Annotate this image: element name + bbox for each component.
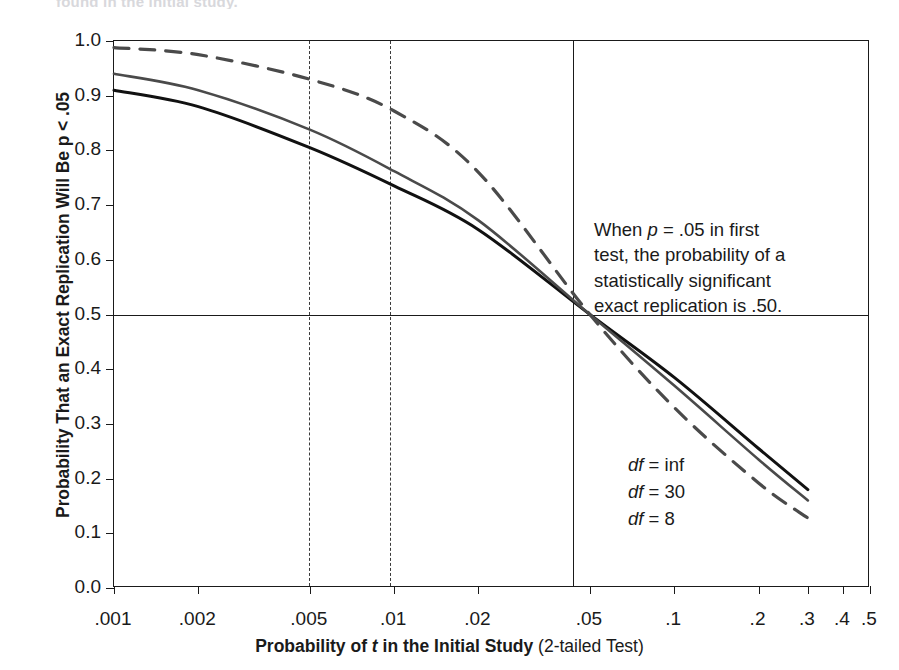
x-tick-label-002: .002 (179, 609, 216, 628)
x-tick-002 (198, 586, 199, 594)
y-tick-label-05: 0.5 (43, 303, 101, 325)
x-tick-02 (478, 586, 479, 594)
y-tick-08 (106, 150, 114, 151)
plot-area: When p = .05 in first test, the probabil… (113, 40, 869, 587)
y-tick-01 (106, 533, 114, 534)
y-tick-09 (106, 96, 114, 97)
y-tick-07 (106, 205, 114, 206)
y-tick-label-02: 0.2 (43, 467, 101, 489)
y-tick-label-07: 0.7 (43, 193, 101, 215)
y-tick-04 (106, 369, 114, 370)
cropped-caption-text: found in the initial study. (56, 0, 356, 9)
df-italic-inf: df (628, 454, 643, 475)
y-tick-03 (106, 424, 114, 425)
x-tick-05 (590, 586, 591, 594)
y-tick-label-06: 0.6 (43, 248, 101, 270)
x-title-part1: Probability of (255, 636, 372, 656)
x-tick-label-05: .05 (576, 609, 602, 628)
y-tick-label-04: 0.4 (43, 357, 101, 379)
df-italic-30: df (628, 481, 643, 502)
x-tick-label-001: .001 (95, 609, 132, 628)
x-tick-label-01: .01 (380, 609, 406, 628)
annotation-note: When p = .05 in first test, the probabil… (594, 191, 844, 319)
y-tick-label-10: 1.0 (43, 29, 101, 51)
x-tick-label-1: .1 (665, 609, 681, 628)
series-label-df-inf: df = inf (628, 456, 684, 475)
x-tick-label-005: .005 (290, 609, 327, 628)
y-tick-label-09: 0.9 (43, 84, 101, 106)
x-title-part3: (2-tailed Test) (533, 636, 644, 656)
x-tick-005 (310, 586, 311, 594)
annotation-p-italic: p (647, 219, 657, 240)
y-tick-label-08: 0.8 (43, 138, 101, 160)
x-axis-title: Probability of t in the Initial Study (2… (0, 636, 899, 657)
y-tick-label-00: 0.0 (43, 576, 101, 598)
x-tick-001 (114, 586, 115, 594)
series-label-df-8: df = 8 (628, 510, 675, 529)
x-tick-5 (870, 586, 871, 594)
y-tick-05 (106, 315, 114, 316)
x-title-part2: in the Initial Study (378, 636, 534, 656)
x-tick-label-02: .02 (464, 609, 490, 628)
df-italic-8: df (628, 508, 643, 529)
y-tick-00 (106, 588, 114, 589)
x-tick-1 (674, 586, 675, 594)
figure-root: found in the initial study. Probability … (0, 0, 899, 670)
x-tick-2 (759, 586, 760, 594)
y-tick-10 (106, 41, 114, 42)
x-tick-01 (394, 586, 395, 594)
df-value-30: = 30 (643, 481, 685, 502)
y-tick-label-01: 0.1 (43, 521, 101, 543)
x-tick-label-3: .3 (799, 609, 815, 628)
df-value-8: = 8 (643, 508, 674, 529)
df-value-inf: = inf (643, 454, 684, 475)
series-label-df-30: df = 30 (628, 483, 685, 502)
x-tick-label-5: .5 (861, 609, 877, 628)
annotation-lead: When (594, 219, 647, 240)
y-tick-06 (106, 260, 114, 261)
x-tick-label-2: .2 (750, 609, 766, 628)
x-tick-label-4: .4 (834, 609, 850, 628)
y-tick-label-03: 0.3 (43, 412, 101, 434)
x-tick-4 (843, 586, 844, 594)
y-tick-02 (106, 479, 114, 480)
x-tick-3 (808, 586, 809, 594)
